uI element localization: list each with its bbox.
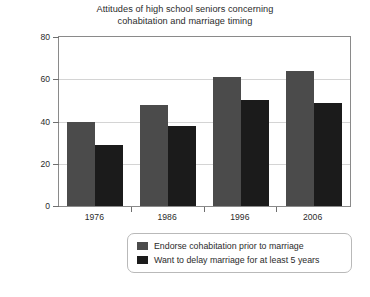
y-axis-tick xyxy=(53,164,59,165)
legend-item[interactable]: Want to delay marriage for at least 5 ye… xyxy=(137,253,342,267)
y-axis-tick-label: 60 xyxy=(40,74,50,84)
y-axis-tick xyxy=(53,122,59,123)
x-axis-group-separator xyxy=(276,207,277,212)
bar xyxy=(95,145,123,206)
bar xyxy=(67,122,95,207)
bar xyxy=(314,103,342,207)
x-axis-tick-label: 1996 xyxy=(230,212,249,222)
chart-title-line-1: Attitudes of high school seniors concern… xyxy=(0,4,370,16)
chart-figure: Attitudes of high school seniors concern… xyxy=(0,0,370,297)
y-axis-tick-label: 20 xyxy=(40,159,50,169)
y-axis-tick-label: 40 xyxy=(40,117,50,127)
x-axis-group-separator xyxy=(131,207,132,212)
y-axis-tick xyxy=(53,79,59,80)
bar xyxy=(168,126,196,206)
y-axis-tick-label: 0 xyxy=(45,201,50,211)
plot-area: 020406080 xyxy=(58,36,351,207)
legend-label: Want to delay marriage for at least 5 ye… xyxy=(154,255,319,265)
x-axis-tick-label: 1986 xyxy=(158,212,177,222)
x-axis-tick-label: 1976 xyxy=(85,212,104,222)
y-axis-tick-label: 80 xyxy=(40,32,50,42)
y-axis-tick xyxy=(53,37,59,38)
legend-swatch-icon xyxy=(137,242,148,250)
bar xyxy=(286,71,314,206)
legend-item[interactable]: Endorse cohabitation prior to marriage xyxy=(137,239,342,253)
x-axis-group-separator xyxy=(204,207,205,212)
y-axis-tick xyxy=(53,206,59,207)
x-axis-tick-label: 2006 xyxy=(303,212,322,222)
chart-title: Attitudes of high school seniors concern… xyxy=(0,4,370,27)
chart-title-line-2: cohabitation and marriage timing xyxy=(0,16,370,28)
y-axis-title: Percentage xyxy=(7,0,21,50)
bar xyxy=(241,100,269,206)
plot-inner xyxy=(59,37,350,206)
legend-swatch-icon xyxy=(137,256,148,264)
bar xyxy=(213,77,241,206)
bar xyxy=(140,105,168,206)
chart-legend: Endorse cohabitation prior to marriageWa… xyxy=(127,233,352,273)
legend-label: Endorse cohabitation prior to marriage xyxy=(154,241,304,251)
